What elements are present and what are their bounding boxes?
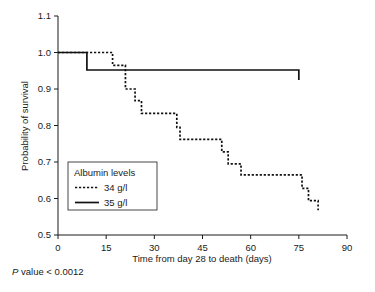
x-axis-title: Time from day 28 to death (days) [132, 253, 272, 264]
y-tick-label: 1.0 [38, 47, 51, 58]
legend-label-0: 34 g/l [104, 182, 127, 193]
y-tick-label: 0.7 [38, 156, 51, 167]
x-tick-label: 75 [294, 242, 305, 253]
axis-tick-labels: 0.50.60.70.80.91.01.10153045607590 [38, 10, 353, 253]
series-line-35-g-l [58, 53, 299, 80]
x-tick-label: 15 [101, 242, 112, 253]
legend-label-1: 35 g/l [104, 197, 127, 208]
chart-legend: Albumin levels34 g/l35 g/l [68, 162, 157, 210]
kaplan-meier-plot: 0.50.60.70.80.91.01.10153045607590 Album… [0, 0, 375, 292]
y-tick-label: 0.5 [38, 229, 51, 240]
y-tick-label: 0.6 [38, 193, 51, 204]
pvalue-annotation: P value < 0.0012 [12, 266, 84, 277]
legend-title: Albumin levels [74, 167, 135, 178]
y-tick-label: 0.9 [38, 83, 51, 94]
y-axis-title: Probability of survival [19, 81, 30, 171]
x-tick-label: 45 [197, 242, 208, 253]
x-tick-label: 60 [245, 242, 256, 253]
x-tick-label: 0 [55, 242, 60, 253]
y-tick-label: 0.8 [38, 120, 51, 131]
x-tick-label: 30 [149, 242, 160, 253]
x-tick-label: 90 [342, 242, 353, 253]
y-tick-label: 1.1 [38, 10, 51, 21]
survival-chart-figure: 0.50.60.70.80.91.01.10153045607590 Album… [0, 0, 375, 292]
pvalue-value: value < 0.0012 [18, 266, 83, 277]
